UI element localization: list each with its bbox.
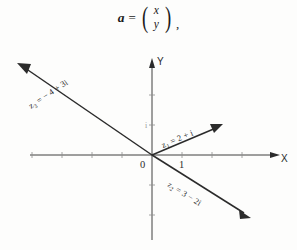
x-axis-arrowhead bbox=[270, 152, 280, 158]
vector-component-x: x bbox=[154, 4, 159, 18]
right-paren: ) bbox=[165, 8, 171, 27]
y-axis-arrowhead bbox=[149, 58, 155, 68]
vector-z2-arrowhead bbox=[239, 210, 251, 219]
equals-sign: = bbox=[128, 11, 137, 24]
column-vector: x y bbox=[153, 4, 160, 31]
vector-z1-arrowhead bbox=[210, 124, 223, 133]
argand-diagram: X Y 0 1 i z1 = 2 + i z2 = 3 − 2i z3 = − bbox=[0, 40, 297, 250]
formula-inline: a = ( x y ) , bbox=[118, 4, 179, 31]
vector-component-y: y bbox=[154, 18, 159, 32]
left-paren: ( bbox=[142, 8, 148, 27]
vector-z2-label-rest: = 3 − 2i bbox=[172, 183, 204, 208]
trailing-comma: , bbox=[176, 17, 179, 31]
y-axis-label: Y bbox=[157, 56, 164, 67]
vector-z1-label-rest: = 2 + i bbox=[166, 127, 195, 147]
x-unit-label: 1 bbox=[179, 159, 184, 170]
x-axis-label: X bbox=[281, 153, 288, 164]
argand-diagram-svg: X Y 0 1 i z1 = 2 + i z2 = 3 − 2i z3 = − bbox=[0, 40, 297, 250]
vector-z1: z1 = 2 + i bbox=[152, 124, 223, 155]
vector-z3-arrowhead bbox=[17, 63, 31, 74]
vector-z3: z3 = − 4 + 3i bbox=[17, 63, 152, 155]
origin-label: 0 bbox=[140, 159, 145, 170]
vector-z3-label-rest: = − 4 + 3i bbox=[32, 77, 70, 107]
vector-z2: z2 = 3 − 2i bbox=[152, 155, 251, 219]
y-unit-label: i bbox=[145, 121, 148, 130]
vector-z3-line bbox=[25, 68, 152, 155]
vector-definition-formula: a = ( x y ) , bbox=[0, 4, 297, 38]
vector-symbol-a: a bbox=[118, 11, 125, 25]
